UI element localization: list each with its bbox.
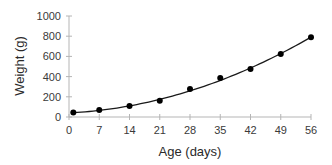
data-point bbox=[248, 66, 254, 72]
x-axis-title: Age (days) bbox=[159, 144, 222, 159]
data-point bbox=[157, 98, 163, 104]
y-tick-label: 1000 bbox=[37, 10, 61, 22]
x-tick-label: 0 bbox=[66, 124, 72, 136]
x-tick-label: 14 bbox=[123, 124, 135, 136]
y-axis-ticks: 02004006008001000 bbox=[37, 10, 72, 123]
x-tick-label: 42 bbox=[244, 124, 256, 136]
y-tick-label: 800 bbox=[43, 30, 61, 42]
data-point bbox=[70, 109, 76, 115]
y-axis-title: Weight (g) bbox=[12, 36, 27, 96]
data-point bbox=[217, 75, 223, 81]
x-tick-label: 7 bbox=[96, 124, 102, 136]
y-tick-label: 200 bbox=[43, 91, 61, 103]
data-point bbox=[96, 107, 102, 113]
y-tick-label: 0 bbox=[55, 111, 61, 123]
data-point bbox=[187, 86, 193, 92]
data-point bbox=[278, 51, 284, 57]
data-point bbox=[127, 103, 133, 109]
y-tick-label: 400 bbox=[43, 71, 61, 83]
x-tick-label: 35 bbox=[214, 124, 226, 136]
x-tick-label: 56 bbox=[305, 124, 317, 136]
fit-curve bbox=[73, 37, 311, 113]
data-points bbox=[70, 34, 314, 115]
x-tick-label: 49 bbox=[275, 124, 287, 136]
y-tick-label: 600 bbox=[43, 50, 61, 62]
x-tick-label: 28 bbox=[184, 124, 196, 136]
x-tick-label: 21 bbox=[154, 124, 166, 136]
chart: 02004006008001000 0714212835424956 Weigh… bbox=[0, 0, 332, 165]
data-point bbox=[308, 34, 314, 40]
